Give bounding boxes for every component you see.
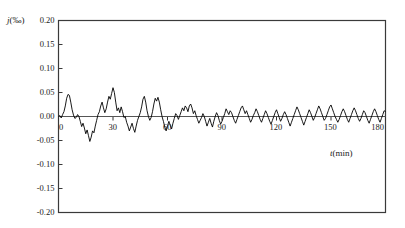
x-tick-label: 60 [163, 123, 172, 132]
y-tick-label: 0.20 [21, 16, 55, 25]
x-tick-label: 90 [217, 123, 226, 132]
x-tick-label: 150 [324, 123, 337, 132]
x-tick-label: 120 [270, 123, 283, 132]
x-axis-unit: (min) [333, 148, 353, 158]
data-series-line [59, 88, 386, 142]
y-tick-label: -0.15 [21, 184, 55, 193]
y-tick-label: 0.15 [21, 40, 55, 49]
y-tick-label: 0.05 [21, 88, 55, 97]
y-tick-label: -0.05 [21, 136, 55, 145]
x-tick-label: 180 [371, 123, 384, 132]
y-tick-label: -0.10 [21, 160, 55, 169]
chart-figure: j(‰) t(min) 0.200.150.100.050.00-0.05-0.… [0, 0, 405, 228]
y-tick-label: -0.20 [21, 208, 55, 217]
x-tick-label: 0 [59, 123, 63, 132]
y-tick-label: 0.10 [21, 64, 55, 73]
x-axis-title: t(min) [330, 149, 353, 158]
y-tick-label: 0.00 [21, 112, 55, 121]
signal-line-chart [0, 0, 405, 228]
x-tick-label: 30 [108, 123, 117, 132]
